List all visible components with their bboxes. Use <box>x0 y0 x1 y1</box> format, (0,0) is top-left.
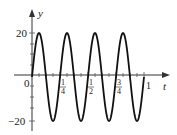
sine-wave-chart: y t 20 −20 0 1 4 1 2 3 4 1 <box>0 0 177 135</box>
y-axis-arrow-icon <box>29 9 35 17</box>
axes <box>14 14 166 131</box>
sine-curve <box>32 33 144 121</box>
svg-text:3: 3 <box>117 78 121 87</box>
svg-text:2: 2 <box>89 87 93 96</box>
x-tick-label-quarter: 1 4 <box>60 78 66 96</box>
svg-text:1: 1 <box>89 78 93 87</box>
x-tick-label-half: 1 2 <box>88 78 94 96</box>
y-tick-label-bottom: −20 <box>8 115 26 127</box>
x-axis-label: t <box>163 80 167 92</box>
x-axis-arrow-icon <box>162 72 170 78</box>
x-tick-label-three-quarters: 3 4 <box>116 78 122 96</box>
x-tick-label-one: 1 <box>146 80 151 91</box>
svg-text:4: 4 <box>61 87 65 96</box>
origin-label: 0 <box>24 77 30 89</box>
y-axis-label: y <box>37 7 43 19</box>
svg-text:4: 4 <box>117 87 121 96</box>
y-tick-label-top: 20 <box>16 27 28 39</box>
svg-text:1: 1 <box>61 78 65 87</box>
